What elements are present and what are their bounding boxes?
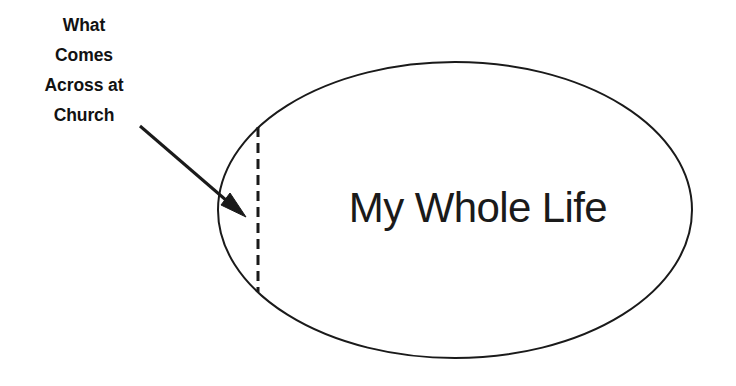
callout-arrow-shaft xyxy=(140,126,234,207)
ellipse-caption: My Whole Life xyxy=(340,183,616,233)
callout-label: What Comes Across at Church xyxy=(24,10,144,130)
diagram-canvas: What Comes Across at Church My Whole Lif… xyxy=(0,0,736,386)
callout-label-line-4: Church xyxy=(24,100,144,130)
callout-label-line-1: What xyxy=(24,10,144,40)
callout-label-line-3: Across at xyxy=(24,70,144,100)
callout-label-line-2: Comes xyxy=(24,40,144,70)
